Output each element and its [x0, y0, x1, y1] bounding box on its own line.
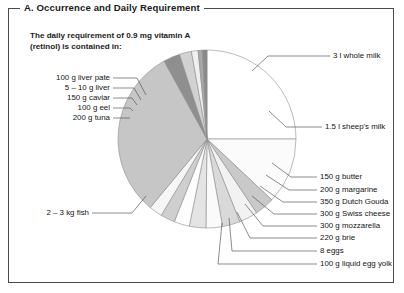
pie-label-whole-milk: 3 l whole milk [333, 51, 380, 60]
pie-label-margarine: 200 g margarine [320, 185, 377, 194]
pie-label-tuna: 200 g tuna [0, 113, 110, 122]
pie-label-eel: 100 g eel [0, 103, 110, 112]
pie-label-brie: 220 g brie [320, 233, 355, 242]
pie-label-mozzarella: 300 g mozzarella [320, 221, 380, 230]
pie-label-eggs: 8 eggs [320, 246, 344, 255]
pie-slice: 3 l whole milk — 25% [207, 50, 296, 139]
pie-label-dutch-gouda: 350 g Dutch Gouda [320, 197, 388, 206]
pie-label-swiss-cheese: 300 g Swiss cheese [320, 209, 390, 218]
pie-label-caviar: 150 g caviar [0, 93, 110, 102]
pie-label-liver: 5 – 10 g liver [0, 83, 110, 92]
pie-label-liver-pate: 100 g liver pate [0, 73, 110, 82]
pie-label-liquid-egg-yolk: 100 g liquid egg yolk [320, 259, 392, 268]
pie-label-sheeps-milk: 1.5 l sheep's milk [325, 122, 385, 131]
pie-label-fish: 2 – 3 kg fish [0, 208, 89, 217]
leader-whole-milk [252, 56, 330, 71]
pie-slices: 3 l whole milk — 25%1.5 l sheep's milk —… [118, 50, 296, 228]
pie-label-butter: 150 g butter [320, 172, 362, 181]
leader-fish [92, 196, 146, 213]
leader-egg-yolk [218, 223, 317, 264]
